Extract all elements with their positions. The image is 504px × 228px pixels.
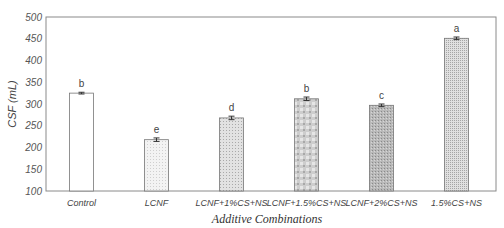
bar [295, 99, 319, 191]
bars: bedbca [70, 23, 469, 191]
significance-letter: c [379, 90, 384, 101]
significance-letter: b [304, 83, 310, 94]
x-tick-label: LCNF [145, 198, 169, 208]
bar [445, 38, 469, 191]
x-tick-label: Control [67, 198, 97, 208]
y-tick-label: 100 [25, 186, 42, 197]
plot-area: 100150200250300350400450500 [24, 12, 496, 197]
y-tick-label: 350 [25, 77, 42, 88]
x-tick-label: LCNF+1%CS+NS [195, 198, 267, 208]
y-tick-label: 250 [24, 120, 42, 131]
y-tick-label: 150 [25, 164, 42, 175]
significance-letter: e [154, 124, 160, 135]
bar-chart: 100150200250300350400450500 bedbca Contr… [0, 0, 504, 228]
y-axis-title: CSF (mL) [6, 80, 18, 128]
x-tick-label: LCNF+1.5%CS+NS [267, 198, 347, 208]
x-axis-title: Additive Combinations [211, 212, 323, 226]
y-tick-label: 450 [25, 33, 42, 44]
y-tick-label: 300 [25, 99, 42, 110]
significance-letter: b [79, 78, 85, 89]
x-tick-label: 1.5%CS+NS [431, 198, 482, 208]
x-tick-label: LCNF+2%CS+NS [345, 198, 417, 208]
y-tick-label: 400 [25, 55, 42, 66]
y-tick-label: 500 [25, 12, 42, 23]
bar [370, 105, 394, 191]
plot-frame [46, 17, 496, 191]
significance-letter: a [454, 23, 460, 34]
bar [70, 93, 94, 191]
y-tick-label: 200 [24, 142, 42, 153]
bar [220, 118, 244, 191]
bar [145, 140, 169, 191]
significance-letter: d [229, 102, 235, 113]
